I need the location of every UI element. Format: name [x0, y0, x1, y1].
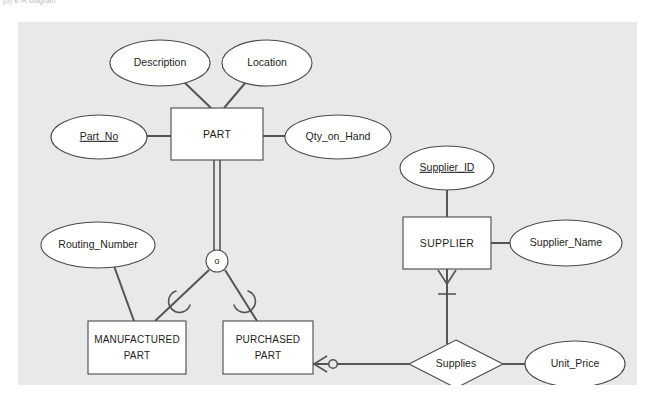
er-diagram-canvas: PART MANUFACTURED PART PURCHASED PART SU… [18, 22, 637, 385]
entity-supplier-label: SUPPLIER [420, 237, 474, 249]
subtype-overlap-symbol[interactable]: o [206, 250, 228, 272]
edge-subtype-purchased [225, 270, 257, 321]
attribute-supplier-id[interactable]: Supplier_ID [400, 146, 494, 190]
attribute-supplier-name-label: Supplier_Name [530, 236, 603, 248]
subtype-arc-manufactured-icon [169, 291, 190, 312]
attribute-unit-price-label: Unit_Price [551, 357, 600, 369]
entity-manufactured-part[interactable]: MANUFACTURED PART [88, 321, 186, 374]
figure-caption: (b) E-R diagram [3, 0, 56, 5]
entity-purchased-part-box[interactable] [223, 321, 313, 374]
crowsfoot-circle-purchased-icon [314, 356, 337, 372]
attribute-qty-on-hand-label: Qty_on_Hand [306, 130, 371, 142]
entity-purchased-part-label-line2: PART [255, 350, 282, 361]
attribute-supplier-id-label: Supplier_ID [420, 161, 475, 173]
edge-subtype-manufactured [155, 270, 209, 321]
entity-part[interactable]: PART [171, 108, 263, 160]
entity-manufactured-part-box[interactable] [88, 321, 186, 374]
entity-part-label: PART [203, 128, 232, 140]
attribute-part-no-label: Part_No [80, 130, 119, 142]
entity-manufactured-part-label-line2: PART [124, 350, 151, 361]
er-diagram-panel: PART MANUFACTURED PART PURCHASED PART SU… [18, 22, 637, 385]
relationship-supplies-label: Supplies [436, 357, 476, 369]
attribute-routing-number-label: Routing_Number [58, 238, 138, 250]
attribute-description-label: Description [134, 56, 187, 68]
subtype-arc-symbols [169, 291, 256, 312]
relationship-supplies[interactable]: Supplies [409, 340, 503, 385]
attribute-qty-on-hand[interactable]: Qty_on_Hand [285, 115, 391, 159]
attribute-part-no[interactable]: Part_No [51, 115, 147, 159]
edge-location-part [224, 82, 246, 108]
attribute-unit-price[interactable]: Unit_Price [525, 341, 625, 385]
attribute-location-label: Location [247, 56, 287, 68]
entity-supplier[interactable]: SUPPLIER [403, 217, 491, 269]
edge-routingnumber-manufactured [114, 266, 134, 321]
edge-description-part [184, 82, 211, 108]
attribute-supplier-name[interactable]: Supplier_Name [510, 220, 622, 266]
entity-manufactured-part-label-line1: MANUFACTURED [94, 334, 180, 345]
entity-purchased-part-label-line1: PURCHASED [236, 334, 301, 345]
entity-purchased-part[interactable]: PURCHASED PART [223, 321, 313, 374]
attribute-location[interactable]: Location [222, 40, 312, 86]
attribute-routing-number[interactable]: Routing_Number [41, 222, 155, 268]
attribute-description[interactable]: Description [110, 40, 210, 86]
subtype-overlap-label: o [214, 256, 219, 266]
